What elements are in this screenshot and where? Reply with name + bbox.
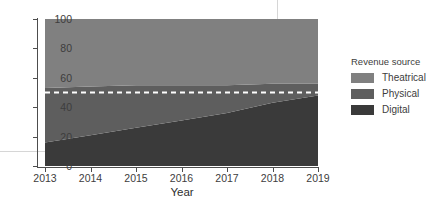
area-series-svg (45, 19, 318, 166)
x-axis-tick-label: 2014 (79, 173, 102, 184)
legend-item-label: Physical (382, 88, 419, 99)
y-axis-tick-label: 80 (60, 43, 72, 53)
stacked-area-chart: 100806040200 201320142015201620172018201… (0, 0, 440, 204)
plot-wrap (45, 19, 318, 166)
x-axis-title: Year (0, 186, 364, 198)
area-series-theatrical (45, 19, 318, 88)
x-axis-tick-label: 2019 (306, 173, 329, 184)
y-axis-tick-label: 100 (54, 14, 72, 24)
y-axis-tick-label: 40 (60, 102, 72, 112)
x-axis-tick-label: 2013 (33, 173, 56, 184)
plot-area (45, 19, 318, 166)
x-axis-tick-label: 2016 (170, 173, 193, 184)
y-axis-tick (33, 107, 37, 108)
x-axis-tick-label: 2018 (261, 173, 284, 184)
y-axis-tick-label: 0 (66, 161, 72, 171)
legend-items: TheatricalPhysicalDigital (351, 71, 436, 116)
legend-title: Revenue source (351, 56, 436, 67)
legend-item-theatrical[interactable]: Theatrical (351, 71, 436, 84)
y-axis-line (37, 18, 38, 168)
y-axis-tick (33, 166, 37, 167)
y-axis-tick (33, 19, 37, 20)
x-axis-tick-label: 2017 (215, 173, 238, 184)
legend-swatch-icon (351, 73, 374, 83)
y-axis-tick-label: 20 (60, 132, 72, 142)
legend: Revenue source TheatricalPhysicalDigital (351, 56, 436, 119)
y-axis-tick (33, 78, 37, 79)
y-axis-tick-label: 60 (60, 73, 72, 83)
x-axis-line (37, 167, 319, 168)
legend-swatch-icon (351, 105, 374, 115)
x-axis-tick-label: 2015 (124, 173, 147, 184)
y-axis-tick (33, 48, 37, 49)
legend-item-label: Digital (382, 104, 410, 115)
legend-item-digital[interactable]: Digital (351, 103, 436, 116)
legend-item-physical[interactable]: Physical (351, 87, 436, 100)
legend-swatch-icon (351, 89, 374, 99)
legend-item-label: Theatrical (382, 72, 426, 83)
y-axis-tick (33, 137, 37, 138)
